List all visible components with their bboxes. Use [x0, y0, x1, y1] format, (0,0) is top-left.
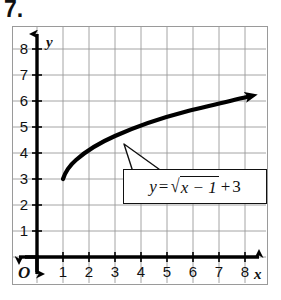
x-tick-label-3: 3 [111, 263, 119, 280]
y-tick-label-3: 3 [20, 170, 28, 187]
x-tick-label-2: 2 [85, 263, 93, 280]
equation-constant: 3 [232, 177, 241, 197]
equation-plus: + [221, 177, 231, 197]
y-tick-label-8: 8 [20, 40, 28, 57]
x-tick-label-8: 8 [241, 263, 249, 280]
x-tick-label-6: 6 [189, 263, 197, 280]
y-tick-label-5: 5 [20, 118, 28, 135]
x-tick-label-7: 7 [215, 263, 223, 280]
problem-number: 7. [4, 0, 23, 23]
y-tick-label-6: 6 [20, 92, 28, 109]
x-tick-label-5: 5 [163, 263, 171, 280]
y-axis-label: y [44, 34, 53, 50]
radical-expression: √ x − 1 [170, 176, 218, 198]
graph-frame: 1 2 3 4 5 6 7 8 1 2 3 4 5 6 7 8 y x O y … [12, 26, 268, 285]
x-tick-label-1: 1 [59, 263, 67, 280]
horizontal-grid-lines [13, 49, 266, 257]
callout-pointer [124, 144, 163, 172]
equation-text: y = √ x − 1 + 3 [149, 176, 241, 198]
equation-equals: = [159, 177, 169, 197]
x-tick-label-4: 4 [137, 263, 145, 280]
coordinate-graph: 1 2 3 4 5 6 7 8 1 2 3 4 5 6 7 8 y x O [13, 27, 266, 283]
origin-label: O [18, 263, 30, 282]
equation-lhs: y [149, 177, 157, 197]
equation-callout-box: y = √ x − 1 + 3 [123, 169, 267, 204]
y-tick-label-2: 2 [20, 196, 28, 213]
y-tick-label-4: 4 [20, 144, 28, 161]
y-tick-label-1: 1 [20, 222, 28, 239]
y-tick-label-7: 7 [20, 66, 28, 83]
radical-sign-icon: √ [171, 176, 180, 198]
radicand: x − 1 [180, 176, 219, 198]
x-axis-label: x [253, 266, 262, 282]
